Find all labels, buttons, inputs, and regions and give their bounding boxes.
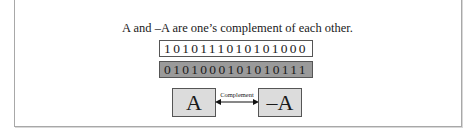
symbol-neg-a-box: –A [258,88,302,117]
figure-caption: A and –A are one’s complement of each ot… [0,21,475,35]
double-arrow-icon [215,97,259,107]
bits-neg-a-box: 0101000101010111 [159,61,313,78]
symbol-a-box: A [172,88,216,117]
bits-a-box: 1010111010101000 [159,40,313,57]
